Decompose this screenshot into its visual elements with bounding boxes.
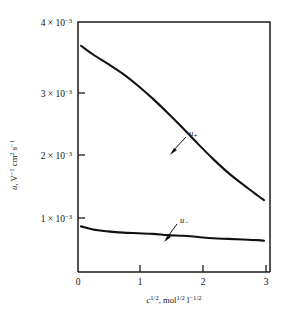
- curve-label-u-minus: u−: [180, 215, 189, 226]
- x-tick-label-1: 1: [138, 277, 143, 287]
- y-axis-title: u, V−1 cm2 s−1: [8, 140, 19, 190]
- y-tick-label-4e-3: 4 × 10−3: [41, 17, 73, 28]
- curve-label-u-plus: u+: [189, 128, 198, 139]
- y-tick-label-2e-3: 2 × 10−3: [41, 150, 73, 161]
- mobility-vs-concentration-chart: 4 × 10−3 3 × 10−3 2 × 10−3 1 × 10−3 0 1 …: [0, 0, 296, 321]
- x-tick-label-0: 0: [76, 277, 81, 287]
- x-tick-label-2: 2: [201, 277, 206, 287]
- y-tick-label-3e-3: 3 × 10−3: [41, 88, 73, 99]
- curve-u-minus: [81, 226, 264, 240]
- chart-figure: 4 × 10−3 3 × 10−3 2 × 10−3 1 × 10−3 0 1 …: [0, 0, 296, 321]
- x-axis-title: c1/2, mol1/2 l−1/2: [146, 294, 201, 305]
- leader-arrowhead-u-plus: [170, 148, 177, 155]
- curve-u-plus: [81, 46, 264, 200]
- y-tick-label-1e-3: 1 × 10−3: [41, 213, 73, 224]
- x-tick-label-3: 3: [264, 277, 269, 287]
